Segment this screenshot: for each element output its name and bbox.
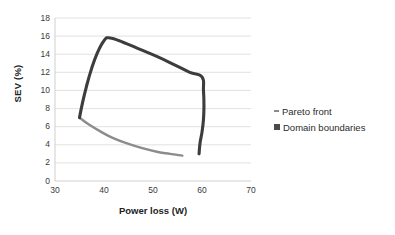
legend-item-pareto-front[interactable]: Pareto front — [274, 103, 392, 119]
chart-legend: Pareto front Domain boundaries — [274, 103, 392, 135]
chart-figure: 18 16 14 12 10 8 6 4 2 0 30 40 50 60 70 … — [0, 0, 395, 235]
x-tick-30: 30 — [40, 186, 70, 195]
y-axis-title: SEV (%) — [12, 49, 23, 119]
legend-label-pareto-front: Pareto front — [282, 106, 332, 117]
legend-item-domain-boundaries[interactable]: Domain boundaries — [274, 119, 392, 135]
x-tick-40: 40 — [89, 186, 119, 195]
x-axis-title: Power loss (W) — [55, 205, 251, 216]
legend-label-domain-boundaries: Domain boundaries — [283, 122, 365, 133]
x-tick-60: 60 — [187, 186, 217, 195]
legend-marker-square-icon — [274, 124, 280, 130]
x-tick-50: 50 — [138, 186, 168, 195]
x-tick-70: 70 — [236, 186, 266, 195]
legend-marker-dash-icon — [274, 110, 279, 112]
